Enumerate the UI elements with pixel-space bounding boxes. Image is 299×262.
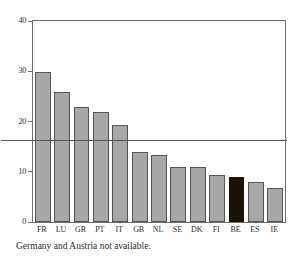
y-axis: 010203040 <box>0 20 32 223</box>
x-axis-tick-label: GR <box>71 224 90 236</box>
bar <box>209 175 225 222</box>
y-tick-label: 40 <box>18 15 26 26</box>
y-tick-label: 30 <box>18 65 26 76</box>
x-axis-tick-label: IE <box>265 224 284 236</box>
bar <box>132 152 148 222</box>
x-axis-tick-label: IT <box>110 224 129 236</box>
bar-highlighted <box>229 177 245 222</box>
y-tick-label: 20 <box>18 116 26 127</box>
plot-area <box>32 20 286 223</box>
x-axis-tick-label: NL <box>148 224 167 236</box>
reference-line <box>1 140 287 141</box>
bar-series <box>33 21 285 222</box>
plot-surface <box>33 21 285 222</box>
bar <box>74 107 90 222</box>
bar-chart-figure: 010203040 FRLUGRPTITGBNLSEDKFIBEESIE Ger… <box>0 0 299 262</box>
bar <box>248 182 264 222</box>
x-axis-tick-label: FR <box>32 224 51 236</box>
bar <box>93 112 109 222</box>
bar <box>54 92 70 222</box>
bar <box>35 72 51 222</box>
y-tick-label: 0 <box>22 216 26 227</box>
bar <box>190 167 206 222</box>
x-axis: FRLUGRPTITGBNLSEDKFIBEESIE <box>32 224 286 238</box>
bar <box>267 188 283 222</box>
x-axis-tick-label: GB <box>129 224 148 236</box>
x-axis-tick-label: BE <box>226 224 245 236</box>
x-axis-tick-label: SE <box>168 224 187 236</box>
y-tick-label: 10 <box>18 166 26 177</box>
x-axis-tick-label: ES <box>245 224 264 236</box>
x-axis-tick-label: DK <box>187 224 206 236</box>
x-axis-tick-label: LU <box>51 224 70 236</box>
chart-caption: Germany and Austria not available. <box>16 240 151 253</box>
x-axis-tick-label: FI <box>206 224 225 236</box>
bar <box>170 167 186 222</box>
x-axis-tick-label: PT <box>90 224 109 236</box>
bar <box>151 155 167 222</box>
